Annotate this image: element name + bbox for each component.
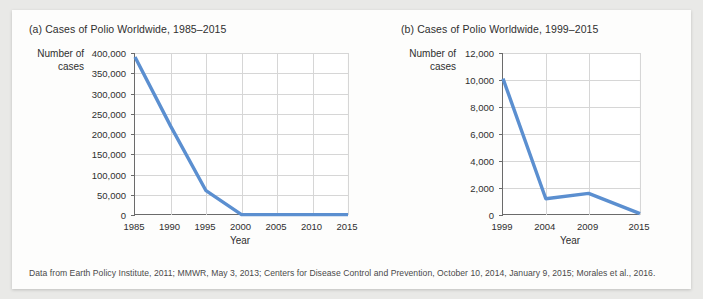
x-tick-label: 1999 — [491, 221, 512, 232]
x-tick-label: 1995 — [194, 221, 215, 232]
figure-panel: (a) Cases of Polio Worldwide, 1985–2015 … — [12, 10, 691, 289]
gridline-vertical — [277, 53, 278, 215]
y-tick-mark — [131, 114, 135, 115]
x-tick-label: 2010 — [301, 221, 322, 232]
chart-b-plot-area — [502, 53, 639, 215]
y-tick-label: 200,000 — [80, 129, 126, 140]
y-tick-mark — [131, 53, 135, 54]
y-tick-mark — [499, 161, 503, 162]
y-tick-mark — [131, 215, 135, 216]
y-tick-label: 0 — [80, 210, 126, 221]
y-tick-label: 4,000 — [452, 156, 494, 167]
y-tick-label: 150,000 — [80, 149, 126, 160]
y-tick-label: 10,000 — [452, 75, 494, 86]
chart-b-xaxis-title: Year — [502, 235, 638, 246]
y-tick-mark — [499, 53, 503, 54]
x-tick-label: 2005 — [265, 221, 286, 232]
x-tick-label: 1990 — [159, 221, 180, 232]
y-tick-mark — [499, 188, 503, 189]
gridline-horizontal — [503, 134, 640, 135]
gridline-vertical — [206, 53, 207, 215]
y-tick-label: 350,000 — [80, 68, 126, 79]
chart-b-title: (b) Cases of Polio Worldwide, 1999–2015 — [401, 23, 598, 35]
y-tick-mark — [131, 175, 135, 176]
y-tick-mark — [499, 107, 503, 108]
gridline-vertical — [640, 53, 641, 215]
y-tick-mark — [499, 134, 503, 135]
y-tick-mark — [131, 195, 135, 196]
gridline-vertical — [546, 53, 547, 215]
y-tick-mark — [499, 215, 503, 216]
x-tick-label: 2000 — [230, 221, 251, 232]
y-tick-mark — [131, 94, 135, 95]
y-tick-mark — [131, 154, 135, 155]
y-tick-label: 100,000 — [80, 169, 126, 180]
y-tick-label: 50,000 — [80, 189, 126, 200]
y-tick-label: 400,000 — [80, 48, 126, 59]
gridline-vertical — [242, 53, 243, 215]
gridline-horizontal — [503, 53, 640, 54]
gridline-horizontal — [503, 188, 640, 189]
x-tick-label: 2015 — [336, 221, 357, 232]
y-tick-mark — [131, 134, 135, 135]
gridline-horizontal — [503, 107, 640, 108]
y-tick-mark — [499, 80, 503, 81]
gridline-horizontal — [503, 80, 640, 81]
y-tick-label: 6,000 — [452, 129, 494, 140]
y-tick-mark — [131, 73, 135, 74]
chart-b-yaxis-title-line1: Number of — [409, 48, 456, 59]
x-tick-label: 2004 — [534, 221, 555, 232]
y-tick-label: 2,000 — [452, 183, 494, 194]
y-tick-label: 250,000 — [80, 108, 126, 119]
chart-a-plot-area — [134, 53, 347, 215]
gridline-vertical — [589, 53, 590, 215]
y-tick-label: 300,000 — [80, 88, 126, 99]
chart-a-title: (a) Cases of Polio Worldwide, 1985–2015 — [29, 23, 226, 35]
x-tick-label: 2015 — [628, 221, 649, 232]
chart-b-yaxis-title-line2: cases — [430, 61, 456, 72]
gridline-vertical — [313, 53, 314, 215]
x-tick-label: 1985 — [123, 221, 144, 232]
chart-a-yaxis-title: Number of cases — [20, 48, 84, 73]
chart-a-xaxis-title: Year — [134, 235, 346, 246]
gridline-vertical — [171, 53, 172, 215]
figure-caption: Data from Earth Policy Institute, 2011; … — [29, 268, 655, 278]
gridline-vertical — [348, 53, 349, 215]
gridline-horizontal — [503, 161, 640, 162]
y-tick-label: 8,000 — [452, 102, 494, 113]
y-tick-label: 12,000 — [452, 48, 494, 59]
chart-a-yaxis-title-line1: Number of — [37, 48, 84, 59]
y-tick-label: 0 — [452, 210, 494, 221]
x-tick-label: 2009 — [577, 221, 598, 232]
chart-b-yaxis-title: Number of cases — [392, 48, 456, 73]
